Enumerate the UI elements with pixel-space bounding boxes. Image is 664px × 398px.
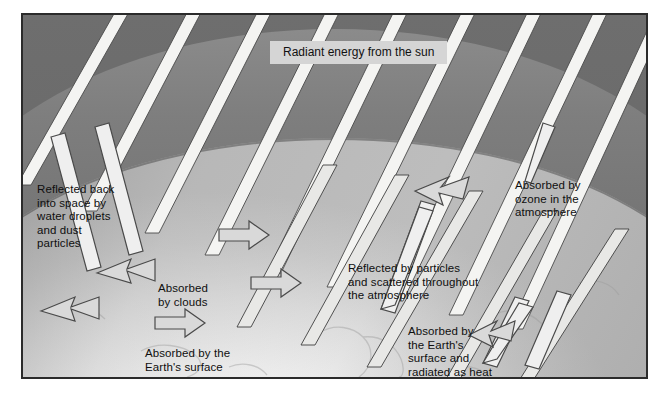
label-absorbed-earth-surface: Absorbed by the Earth's surface <box>145 347 230 374</box>
label-reflected-by-particles: Reflected by particles and scattered thr… <box>348 262 478 303</box>
label-radiated-as-heat: Absorbed by the Earth's surface and radi… <box>408 325 492 379</box>
title-label: Radiant energy from the sun <box>270 41 447 64</box>
illustration-panel: Radiant energy from the sun Reflected ba… <box>21 13 648 379</box>
solar-radiation-diagram: Radiant energy from the sun Reflected ba… <box>0 0 664 398</box>
label-absorbed-by-ozone: Absorbed by ozone in the atmosphere <box>515 179 581 220</box>
label-absorbed-by-clouds: Absorbed by clouds <box>158 282 208 309</box>
label-reflected-into-space: Reflected back into space by water dropl… <box>37 183 114 251</box>
